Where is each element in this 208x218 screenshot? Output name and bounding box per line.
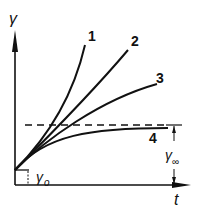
curve-label-1: 1	[88, 28, 96, 44]
gamma-zero-label: γ	[36, 169, 44, 185]
x-axis-label: t	[174, 191, 179, 208]
diagram-canvas: γ t γ o γ ∞ 1 2 3 4	[0, 0, 208, 218]
y-axis-label: γ	[9, 10, 18, 27]
gamma-zero-subscript: o	[44, 177, 50, 188]
curve-label-3: 3	[156, 70, 164, 86]
curve-label-2: 2	[131, 33, 139, 49]
diagram-svg: γ t γ o γ ∞ 1 2 3 4	[0, 0, 208, 218]
curve-label-4: 4	[149, 130, 157, 146]
gamma-inf-arrow-up-icon	[172, 126, 176, 133]
y-axis-arrow-icon	[12, 30, 18, 52]
curve-2	[15, 50, 128, 170]
x-axis-arrow-icon	[172, 182, 191, 188]
gamma-inf-subscript: ∞	[172, 156, 179, 167]
curve-1	[15, 45, 85, 170]
